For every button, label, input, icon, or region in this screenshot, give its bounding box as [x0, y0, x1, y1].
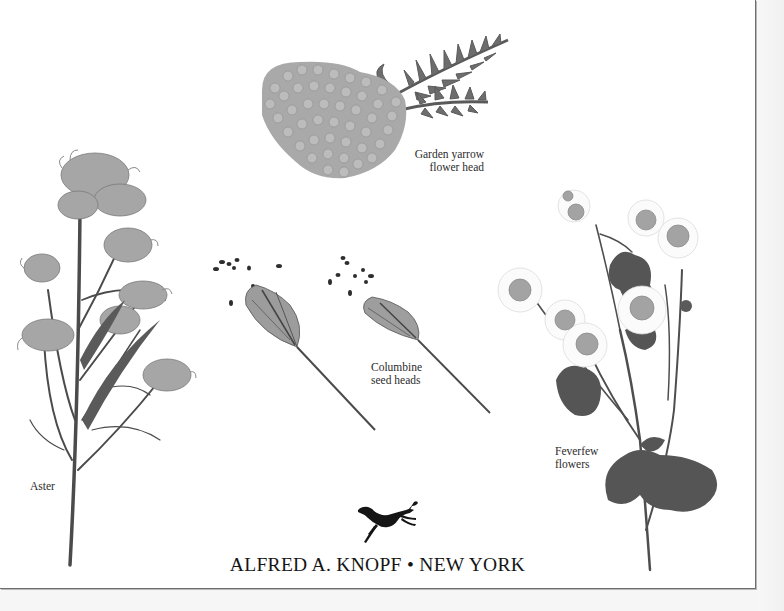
publisher-imprint: ALFRED A. KNOPF • NEW YORK	[0, 554, 755, 576]
caption-feverfew: Feverfew flowers	[555, 445, 598, 471]
caption-columbine: Columbine seed heads	[371, 361, 422, 387]
caption-garden-yarrow: Garden yarrow flower head	[396, 148, 484, 174]
scan-margin	[757, 0, 784, 611]
caption-aster: Aster	[30, 480, 55, 493]
borzoi-dog-icon	[354, 498, 424, 546]
publisher-name: ALFRED A. KNOPF	[230, 554, 402, 575]
feverfew-flower-heads	[498, 190, 698, 367]
publisher-city: NEW YORK	[419, 554, 525, 575]
imprint-separator: •	[407, 554, 414, 575]
feverfew-stems	[535, 225, 682, 570]
book-page: Garden yarrow flower head Columbine seed…	[0, 0, 756, 589]
